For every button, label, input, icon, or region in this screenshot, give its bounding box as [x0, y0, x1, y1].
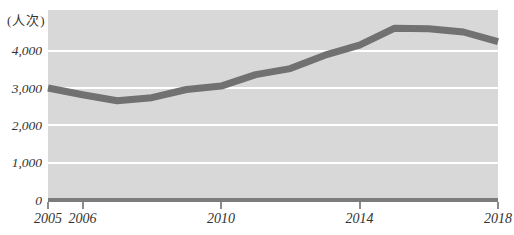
y-tick-label-2000: 2,000 — [0, 119, 42, 133]
y-axis-unit-label: (人次) — [7, 10, 46, 29]
x-tick-2018 — [497, 202, 499, 209]
x-axis-line — [48, 198, 498, 202]
x-tick-2005 — [47, 202, 49, 209]
x-tick-label-2010: 2010 — [207, 211, 235, 228]
y-tick-label-3000: 3,000 — [0, 82, 42, 96]
x-tick-2010 — [220, 202, 222, 209]
x-tick-label-2005: 2005 — [34, 211, 62, 228]
y-tick-label-0: 0 — [0, 194, 42, 208]
data-line — [48, 28, 498, 100]
line-chart: (人次) 01,0002,0003,0004,000 2005200620102… — [0, 0, 514, 235]
data-line-svg — [48, 10, 498, 200]
plot-area — [48, 10, 498, 200]
x-tick-label-2018: 2018 — [484, 211, 512, 228]
x-tick-2014 — [359, 202, 361, 209]
y-tick-label-4000: 4,000 — [0, 44, 42, 58]
y-tick-label-1000: 1,000 — [0, 156, 42, 170]
x-tick-label-2014: 2014 — [346, 211, 374, 228]
x-tick-2006 — [82, 202, 84, 209]
x-tick-label-2006: 2006 — [69, 211, 97, 228]
